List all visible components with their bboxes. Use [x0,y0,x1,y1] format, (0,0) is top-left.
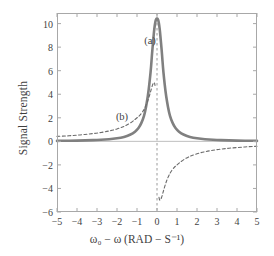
x-axis-label-text: ω₀ − ω (RAD − S⁻¹) [90,233,184,245]
x-tick-label: 0 [155,216,160,227]
y-tick-label: 6 [48,65,53,76]
y-tick-label: 8 [48,42,53,53]
y-tick-label: 10 [43,18,53,29]
curve-annotation-a: (a) [144,35,156,46]
y-axis-label: Signal Strength [17,48,29,188]
x-tick-label: 2 [195,216,200,227]
x-tick-label: −2 [112,216,123,227]
curve-annotation-b: (b) [116,111,128,122]
x-tick-label: −1 [132,216,143,227]
series-line-2 [159,146,257,200]
y-tick-label: −4 [42,183,53,194]
x-tick-label: −5 [52,216,63,227]
y-tick-label: 0 [48,136,53,147]
figure-container: Signal Strength ω₀ − ω (RAD − S⁻¹) −5−4−… [0,0,274,256]
y-tick-label: −2 [42,159,53,170]
y-tick-label: 4 [48,89,53,100]
x-tick-label: 1 [175,216,180,227]
x-axis-label: ω₀ − ω (RAD − S⁻¹) [0,232,274,246]
x-tick-label: −3 [92,216,103,227]
x-tick-label: 5 [255,216,260,227]
x-tick-label: −4 [72,216,83,227]
y-tick-label: −6 [42,207,53,218]
x-tick-label: 4 [235,216,240,227]
y-tick-label: 2 [48,112,53,123]
series-line-2 [57,83,155,137]
x-tick-label: 3 [215,216,220,227]
